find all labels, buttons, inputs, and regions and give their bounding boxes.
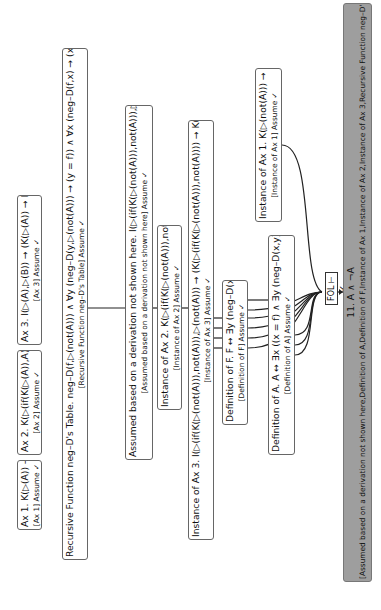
node-recursive-function[interactable]: Recursive Function neg–D's Table. neg–D(… xyxy=(62,48,88,560)
node-justification: [Ax 1] Assume ✓ xyxy=(31,463,42,527)
node-justification: [Definition of A] Assume ✓ xyxy=(282,238,294,452)
node-justification: [Definition of F] Assume ✓ xyxy=(236,283,248,422)
node-instance-ax3[interactable]: Instance of Ax 3. I(▷(if(K(▷(not(A))),no… xyxy=(188,120,214,540)
node-formula: Definition of F. F ↔ ∃y (neg–D(x,y) ∧ K(… xyxy=(224,283,236,422)
node-formula: Definition of A. A ↔ ∃x ((x = f) ∧ ∃y (n… xyxy=(270,238,282,452)
node-formula: Recursive Function neg–D's Table. neg–D(… xyxy=(64,51,76,557)
fol-inference-label[interactable]: FOL ⊢ ✓ xyxy=(325,272,338,305)
node-definition-a[interactable]: Definition of A. A ↔ ∃x ((x = f) ∧ ∃y (n… xyxy=(268,235,295,455)
node-formula: Ax 1. K(▷(A)) → A xyxy=(19,463,31,527)
node-justification: [Ax 3] Assume ✓ xyxy=(31,198,42,342)
node-justification: [Assumed based on a derivation not shown… xyxy=(357,6,369,579)
node-formula: Instance of Ax 2. K(▷(if(K(▷(not(A))),no… xyxy=(159,228,171,407)
node-definition-f[interactable]: Definition of F. F ↔ ∃y (neg–D(x,y) ∧ K(… xyxy=(222,280,248,425)
node-instance-ax2[interactable]: Instance of Ax 2. K(▷(if(K(▷(not(A))),no… xyxy=(157,225,182,410)
node-conclusion[interactable]: 11. A ∧ ¬A [Assumed based on a derivatio… xyxy=(343,3,372,582)
node-justification: [Instance of Ax 3] Assume ✓ xyxy=(202,123,214,537)
node-ax1[interactable]: Ax 1. K(▷(A)) → A [Ax 1] Assume ✓ xyxy=(17,460,42,530)
node-justification: [Instance of Ax 2] Assume ✓ xyxy=(171,228,182,407)
node-formula: Instance of Ax 3. I(▷(if(K(▷(not(A))),no… xyxy=(190,123,202,537)
node-formula: Ax 3. I(▷(A),▷(B)) → (K(▷(A)) → K(▷(B))) xyxy=(19,198,31,342)
node-justification: [Recursive Function neg–D's Table] Assum… xyxy=(76,51,88,557)
node-ax3[interactable]: Ax 3. I(▷(A),▷(B)) → (K(▷(A)) → K(▷(B)))… xyxy=(17,195,42,345)
node-justification: [Instance of Ax 1] Assume ✓ xyxy=(269,71,281,219)
proof-diagram: Ax 1. K(▷(A)) → A [Ax 1] Assume ✓ Ax 2. … xyxy=(0,0,381,610)
node-justification: [Assumed based on a derivation not shown… xyxy=(139,108,151,457)
node-formula: Assumed based on a derivation not shown … xyxy=(127,108,139,457)
node-ax2[interactable]: Ax 2. K(▷(if(K(▷(A)),A))) [Ax 2] Assume … xyxy=(17,350,42,455)
node-formula: Instance of Ax 1. K(▷(not(A))) → ¬A xyxy=(257,71,269,219)
node-justification: [Ax 2] Assume ✓ xyxy=(31,353,42,452)
node-assumed-derivation[interactable]: Assumed based on a derivation not shown … xyxy=(125,105,153,460)
node-formula: Ax 2. K(▷(if(K(▷(A)),A))) xyxy=(19,353,31,452)
node-instance-ax1[interactable]: Instance of Ax 1. K(▷(not(A))) → ¬A [Ins… xyxy=(255,68,282,222)
node-formula: 11. A ∧ ¬A xyxy=(345,6,357,579)
